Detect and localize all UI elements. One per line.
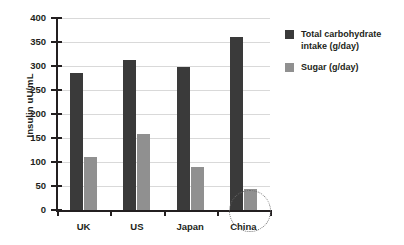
bar-us-series-0 [123, 60, 136, 210]
legend-label: Total carbohydrate intake (g/day) [301, 29, 404, 52]
y-tick-label: 250 [6, 84, 46, 95]
legend-swatch-icon [285, 63, 294, 72]
y-tick-label: 150 [6, 132, 46, 143]
y-tick-label: 50 [6, 180, 46, 191]
y-tick-label: 400 [6, 12, 46, 23]
bar-uk-series-1 [84, 157, 97, 210]
y-axis-line [56, 18, 58, 212]
x-tick-mark [217, 210, 219, 216]
bar-uk-series-0 [70, 73, 83, 210]
bar-china-series-1 [244, 189, 257, 210]
x-tick-mark [270, 210, 272, 216]
bar-japan-series-0 [177, 67, 190, 210]
gridline [57, 18, 270, 19]
x-axis-label-china: China [208, 221, 278, 232]
y-tick-label: 350 [6, 36, 46, 47]
y-tick-label: 200 [6, 108, 46, 119]
x-tick-mark [57, 210, 59, 216]
legend-swatch-icon [285, 30, 294, 39]
y-tick-label: 300 [6, 60, 46, 71]
legend-entry-1: Sugar (g/day) [285, 62, 404, 74]
y-tick-label: 0 [6, 204, 46, 215]
legend-label: Sugar (g/day) [301, 62, 359, 74]
x-tick-mark [110, 210, 112, 216]
bar-china-series-0 [230, 37, 243, 210]
x-tick-mark [164, 210, 166, 216]
bar-us-series-1 [137, 134, 150, 210]
bar-chart-figure: Insulin uU/mL 050100150200250300350400 U… [0, 0, 404, 245]
chart-legend: Total carbohydrate intake (g/day)Sugar (… [285, 29, 404, 84]
bar-japan-series-1 [191, 167, 204, 210]
y-tick-label: 100 [6, 156, 46, 167]
legend-entry-0: Total carbohydrate intake (g/day) [285, 29, 404, 52]
